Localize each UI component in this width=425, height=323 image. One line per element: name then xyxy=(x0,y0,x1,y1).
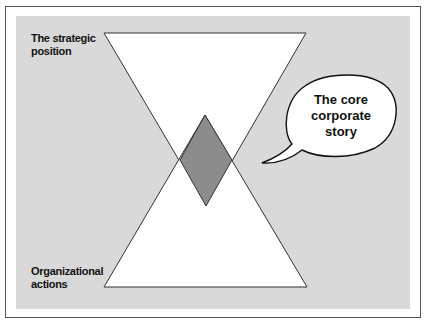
diagram-root: The strategic position Organizational ac… xyxy=(0,0,425,323)
label-organizational-actions: Organizational actions xyxy=(31,265,103,291)
label-line: position xyxy=(31,45,96,58)
bubble-line: story xyxy=(286,124,396,140)
bubble-line: The core xyxy=(286,92,396,108)
label-line: actions xyxy=(31,278,103,291)
bubble-text-core-story: The core corporate story xyxy=(286,92,396,140)
label-line: Organizational xyxy=(31,265,103,278)
label-line: The strategic xyxy=(31,32,96,45)
label-strategic-position: The strategic position xyxy=(31,32,96,58)
bubble-line: corporate xyxy=(286,108,396,124)
